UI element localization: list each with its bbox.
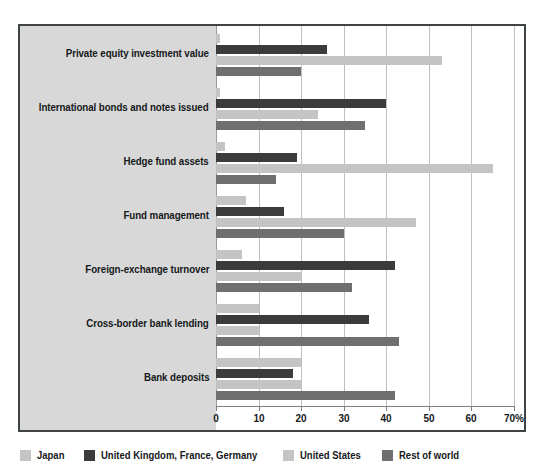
bar [216,326,259,335]
bar [216,218,416,227]
bar [216,261,395,270]
bar [216,88,220,97]
x-tick-label: 70% [504,413,524,424]
legend-label: Japan [37,450,64,461]
legend-label: Rest of world [399,450,459,461]
bar [216,196,246,205]
bar [216,34,220,43]
bar [216,304,259,313]
x-tick [386,406,387,411]
x-tick [344,406,345,411]
x-tick [429,406,430,411]
category-label: International bonds and notes issued [39,101,209,113]
category-label-panel [20,26,216,430]
x-tick-label: 60 [465,413,476,424]
category-label: Bank deposits [143,371,209,383]
legend-swatch [20,450,31,461]
category-label: Foreign-exchange turnover [85,263,209,275]
bar [216,283,352,292]
category-label: Private equity investment value [66,47,209,59]
x-tick [301,406,302,411]
bar [216,272,301,281]
x-axis-line [216,406,514,407]
chart-legend: JapanUnited Kingdom, France, GermanyUnit… [20,448,481,462]
bar [216,45,327,54]
x-tick-label: 40 [380,413,391,424]
bar-group [216,250,524,304]
bar [216,110,318,119]
bar [216,391,395,400]
category-label: Hedge fund assets [124,155,209,167]
bar [216,164,493,173]
x-tick [471,406,472,411]
bar [216,56,442,65]
chart-container: Private equity investment valueInternati… [0,0,545,469]
x-tick [259,406,260,411]
bar [216,229,344,238]
x-tick [514,406,515,411]
bar-group [216,88,524,142]
bar-group [216,34,524,88]
legend-swatch [283,450,294,461]
bar [216,121,365,130]
legend-swatch [84,450,95,461]
bar [216,99,386,108]
bar [216,380,301,389]
bar [216,315,369,324]
bar-group [216,358,524,412]
bar [216,358,301,367]
legend-label: United Kingdom, France, Germany [101,450,257,461]
bar [216,369,293,378]
category-label: Cross-border bank lending [87,317,209,329]
bar [216,207,284,216]
legend-item: Japan [20,450,66,461]
x-tick-label: 10 [253,413,264,424]
x-tick-label: 30 [338,413,349,424]
bar [216,337,399,346]
legend-item: United Kingdom, France, Germany [84,450,265,461]
legend-label: United States [300,450,361,461]
category-label: Fund management [124,209,209,221]
legend-item: Rest of world [382,450,462,461]
bar [216,175,276,184]
bar [216,67,301,76]
bar [216,142,225,151]
bar [216,250,242,259]
bar-group [216,196,524,250]
x-tick [216,406,217,411]
x-tick-label: 50 [423,413,434,424]
x-tick-label: 0 [213,413,219,424]
bar-group [216,142,524,196]
bar [216,153,297,162]
bar-rows [216,26,524,406]
legend-item: United States [283,450,364,461]
legend-swatch [382,450,393,461]
bar-group [216,304,524,358]
x-tick-label: 20 [295,413,306,424]
